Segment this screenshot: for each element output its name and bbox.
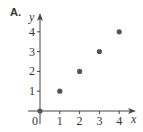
origin-label: 0 — [32, 114, 38, 128]
data-point — [57, 89, 62, 94]
data-point — [37, 108, 42, 113]
y-tick-label: 4 — [29, 25, 35, 39]
data-points — [37, 29, 121, 113]
data-point — [117, 29, 122, 34]
data-point — [77, 69, 82, 74]
x-axis-label: x — [130, 112, 137, 126]
x-tick-label: 1 — [57, 114, 63, 128]
ticks: 012341234 — [29, 25, 122, 128]
x-tick-label: 4 — [116, 114, 122, 128]
y-tick-label: 2 — [29, 64, 35, 78]
y-axis-label: y — [28, 10, 35, 24]
x-tick-label: 3 — [96, 114, 102, 128]
axes: xy — [28, 10, 137, 126]
data-point — [97, 49, 102, 54]
y-tick-label: 1 — [29, 84, 35, 98]
y-tick-label: 3 — [29, 45, 35, 59]
x-tick-label: 2 — [77, 114, 83, 128]
scatter-chart: xy 012341234 — [0, 0, 143, 132]
